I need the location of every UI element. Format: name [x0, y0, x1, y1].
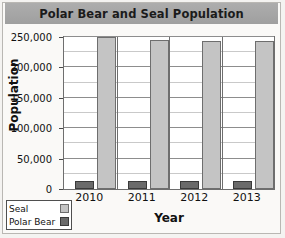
x-tick-label-2010: 2010	[75, 191, 103, 204]
category-separator	[169, 37, 170, 189]
y-axis-title: Population	[7, 50, 21, 140]
bar-seal-2011	[150, 40, 169, 189]
bar-polar-bear-2011	[128, 181, 147, 189]
chart-legend: SealPolar Bear	[6, 200, 72, 230]
bar-polar-bear-2010	[75, 181, 94, 189]
x-tick-label-2011: 2011	[128, 191, 156, 204]
bar-seal-2010	[97, 37, 116, 189]
seal-swatch	[60, 204, 69, 213]
legend-row: Seal	[9, 202, 69, 215]
legend-label: Seal	[9, 204, 28, 214]
y-tick-label: 0	[46, 184, 59, 195]
plot-area	[63, 36, 275, 190]
bar-polar-bear-2013	[233, 181, 252, 190]
x-axis-title: Year	[63, 211, 275, 225]
polar-bear-swatch	[60, 217, 69, 226]
x-axis-tick-labels: 2010201120122013	[63, 191, 275, 207]
category-separator	[222, 37, 223, 189]
chart-figure: Polar Bear and Seal Population 250,00020…	[0, 0, 285, 238]
chart-title-banner: Polar Bear and Seal Population	[5, 3, 278, 24]
chart-title: Polar Bear and Seal Population	[39, 7, 244, 21]
bar-polar-bear-2012	[180, 181, 199, 190]
legend-label: Polar Bear	[9, 217, 55, 227]
x-tick-label-2013: 2013	[233, 191, 261, 204]
bar-seal-2013	[255, 41, 274, 189]
bar-seal-2012	[202, 41, 221, 189]
y-tick-label: 50,000	[17, 153, 59, 164]
category-separator	[117, 37, 118, 189]
y-tick-label: 250,000	[11, 32, 59, 43]
legend-row: Polar Bear	[9, 215, 69, 228]
x-tick-label-2012: 2012	[180, 191, 208, 204]
